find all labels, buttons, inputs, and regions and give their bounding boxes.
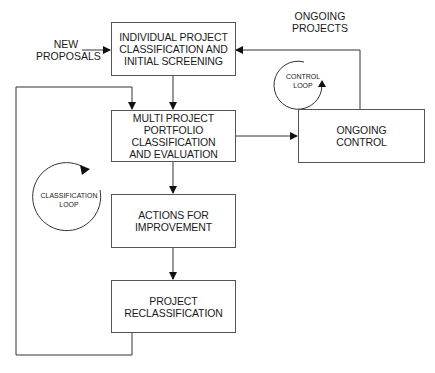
- box-line: MULTI PROJECT: [129, 112, 218, 124]
- box-individual-screening: INDIVIDUAL PROJECT CLASSIFICATION AND IN…: [111, 22, 236, 76]
- classification-loop-label: CLASSIFICATION LOOP: [34, 191, 104, 209]
- box-line: ACTIONS FOR: [135, 209, 212, 221]
- label-line: PROPOSALS: [36, 50, 96, 62]
- box-line: ONGOING: [336, 124, 387, 136]
- box-line: RECLASSIFICATION: [124, 307, 223, 319]
- label-line: NEW: [36, 38, 96, 50]
- loop-line: LOOP: [34, 200, 104, 209]
- loop-line: LOOP: [278, 81, 328, 90]
- box-line: PORTFOLIO: [129, 124, 218, 136]
- box-line: CONTROL: [336, 136, 387, 148]
- label-line: PROJECTS: [280, 22, 360, 34]
- new-proposals-label: NEW PROPOSALS: [36, 38, 96, 62]
- box-line: IMPROVEMENT: [135, 221, 212, 233]
- label-line: ONGOING: [280, 10, 360, 22]
- box-line: INITIAL SCREENING: [119, 55, 228, 67]
- box-line: CLASSIFICATION: [129, 136, 218, 148]
- box-actions-improvement: ACTIONS FOR IMPROVEMENT: [111, 194, 236, 248]
- box-line: PROJECT: [124, 295, 223, 307]
- box-line: INDIVIDUAL PROJECT: [119, 31, 228, 43]
- loop-line: CONTROL: [278, 72, 328, 81]
- classification-loop-arrowhead: [80, 165, 90, 175]
- box-line: CLASSIFICATION AND: [119, 43, 228, 55]
- box-ongoing-control: ONGOING CONTROL: [298, 109, 425, 163]
- box-line: AND EVALUATION: [129, 148, 218, 160]
- control-loop-label: CONTROL LOOP: [278, 72, 328, 90]
- ongoing-projects-label: ONGOING PROJECTS: [280, 10, 360, 34]
- box-portfolio-evaluation: MULTI PROJECT PORTFOLIO CLASSIFICATION A…: [111, 110, 236, 162]
- loop-line: CLASSIFICATION: [34, 191, 104, 200]
- box-project-reclassification: PROJECT RECLASSIFICATION: [111, 280, 236, 333]
